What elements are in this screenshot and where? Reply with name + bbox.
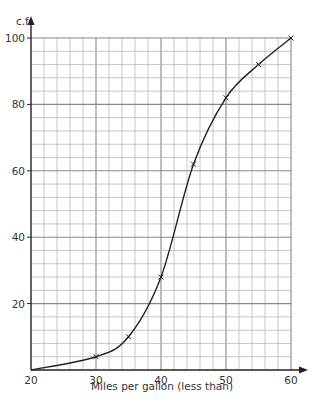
x-axis-title: Miles per gallon (less than) bbox=[91, 380, 233, 392]
y-tick-label: 20 bbox=[12, 298, 25, 310]
grid-lines bbox=[31, 38, 291, 370]
x-tick-label: 20 bbox=[24, 374, 37, 386]
axes bbox=[28, 16, 309, 374]
x-tick-label: 60 bbox=[284, 374, 297, 386]
tick-labels: 203040506020406080100 bbox=[5, 32, 298, 386]
cross-marker-icon bbox=[126, 334, 131, 339]
cumulative-frequency-chart: 203040506020406080100 c.f. Miles per gal… bbox=[0, 0, 314, 409]
x-axis-arrow-icon bbox=[299, 367, 308, 374]
y-axis-title: c.f. bbox=[16, 15, 31, 27]
y-tick-label: 100 bbox=[5, 32, 25, 44]
y-tick-label: 60 bbox=[12, 165, 25, 177]
y-tick-label: 40 bbox=[12, 231, 25, 243]
y-tick-label: 80 bbox=[12, 98, 25, 110]
